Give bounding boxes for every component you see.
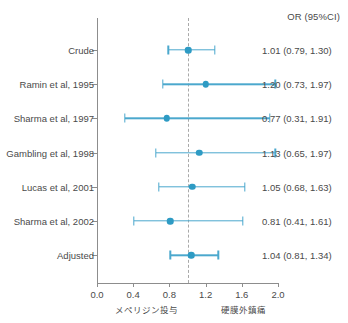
ci-lower-cap xyxy=(133,217,134,226)
odds-ratio-value: 1.01 (0.79, 1.30) xyxy=(262,45,332,56)
ci-upper-cap xyxy=(244,182,245,191)
ci-upper-cap xyxy=(214,46,215,55)
ci-lower-cap xyxy=(158,182,159,191)
x-axis-left-annotation: メペリジン投与 xyxy=(115,303,178,315)
or-column-header: OR (95%CI) xyxy=(287,11,340,22)
odds-ratio-value: 1.05 (0.68, 1.63) xyxy=(262,181,332,192)
x-tick-label: 2.0 xyxy=(271,289,284,300)
x-axis-line xyxy=(97,283,278,284)
study-label: Crude xyxy=(68,45,94,56)
x-tick-label: 0.0 xyxy=(90,289,103,300)
confidence-interval-line xyxy=(156,152,275,153)
odds-ratio-point xyxy=(163,115,170,122)
reference-line-null-effect xyxy=(188,18,189,283)
x-tick-mark xyxy=(278,283,279,287)
study-label: Sharma et al, 1997 xyxy=(14,113,94,124)
odds-ratio-value: 0.81 (0.41, 1.61) xyxy=(262,216,332,227)
odds-ratio-value: 1.13 (0.65, 1.97) xyxy=(262,147,332,158)
study-label: Adjusted xyxy=(57,250,94,261)
odds-ratio-point xyxy=(167,218,174,225)
x-tick-mark xyxy=(97,283,98,287)
ci-upper-cap xyxy=(218,251,219,260)
x-tick-label: 1.6 xyxy=(235,289,248,300)
odds-ratio-value: 0.77 (0.31, 1.91) xyxy=(262,113,332,124)
odds-ratio-point xyxy=(188,252,195,259)
x-tick-mark xyxy=(242,283,243,287)
odds-ratio-value: 1.04 (0.81, 1.34) xyxy=(262,250,332,261)
ci-lower-cap xyxy=(170,251,171,260)
ci-upper-cap xyxy=(242,217,243,226)
x-tick-label: 0.8 xyxy=(163,289,176,300)
study-label: Lucas et al, 2001 xyxy=(22,181,94,192)
study-label: Ramin et al, 1995 xyxy=(20,79,94,90)
x-axis-right-annotation: 硬膜外鎮痛 xyxy=(221,303,266,315)
x-tick-mark xyxy=(133,283,134,287)
odds-ratio-point xyxy=(185,47,192,54)
study-label: Sharma et al, 2002 xyxy=(14,216,94,227)
confidence-interval-line xyxy=(159,186,245,187)
odds-ratio-value: 1.20 (0.73, 1.97) xyxy=(262,79,332,90)
confidence-interval-line xyxy=(163,83,275,84)
confidence-interval-line xyxy=(134,220,243,221)
odds-ratio-point xyxy=(189,184,196,191)
x-tick-label: 0.4 xyxy=(127,289,140,300)
confidence-interval-line xyxy=(125,118,270,119)
ci-lower-cap xyxy=(162,80,163,89)
ci-lower-cap xyxy=(168,46,169,55)
y-axis-line xyxy=(97,18,98,283)
x-tick-mark xyxy=(169,283,170,287)
ci-lower-cap xyxy=(124,114,125,123)
odds-ratio-point xyxy=(202,81,209,88)
study-label: Gambling et al, 1998 xyxy=(6,147,94,158)
odds-ratio-point xyxy=(196,149,203,156)
x-tick-label: 1.2 xyxy=(199,289,212,300)
forest-plot: OR (95%CI) 0.00.40.81.21.62.0 Crude1.01 … xyxy=(0,0,348,323)
ci-lower-cap xyxy=(155,148,156,157)
x-tick-mark xyxy=(206,283,207,287)
